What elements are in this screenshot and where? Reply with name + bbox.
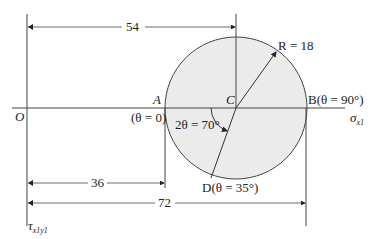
dim-ob: 72 xyxy=(158,195,171,210)
dim-oa: 36 xyxy=(91,175,105,190)
angle-label: 2θ = 70° xyxy=(175,117,220,132)
point-a-label: A xyxy=(152,92,161,107)
tau-axis-label: τx1y1 xyxy=(28,218,48,235)
sigma-axis-label: σx1 xyxy=(350,110,364,127)
mohr-circle-diagram: 54 36 72 O A (θ = 0) C B(θ = 90°) R = 18… xyxy=(0,0,376,239)
dim-oc: 54 xyxy=(126,19,140,34)
point-d-label: D(θ = 35°) xyxy=(202,180,258,195)
radius-label: R = 18 xyxy=(278,38,314,53)
point-a-theta: (θ = 0) xyxy=(131,110,166,125)
origin-label: O xyxy=(15,109,25,124)
center-label: C xyxy=(226,92,235,107)
point-b-label: B(θ = 90°) xyxy=(308,92,364,107)
